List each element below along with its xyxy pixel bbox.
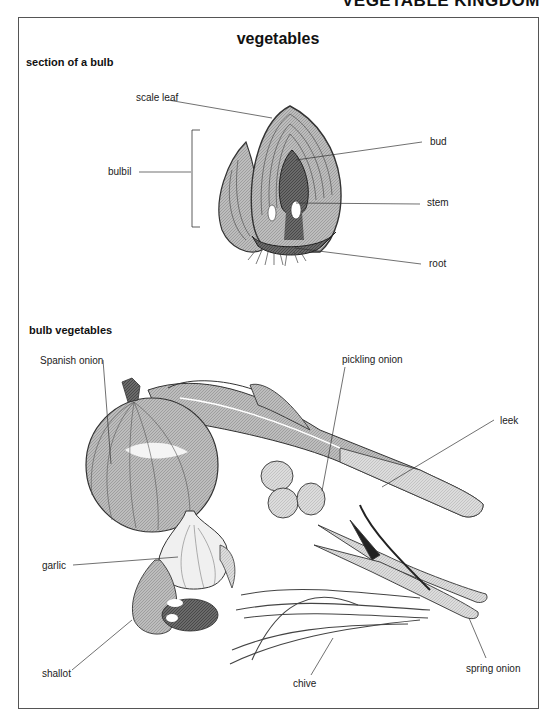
bulb-section-illustration — [192, 106, 341, 266]
label-scale-leaf: scale leaf — [136, 92, 178, 103]
label-spanish-onion: Spanish onion — [40, 355, 103, 366]
label-chive: chive — [293, 678, 316, 689]
label-leek: leek — [500, 415, 518, 426]
label-stem: stem — [427, 197, 449, 208]
label-garlic: garlic — [42, 560, 66, 571]
label-spring-onion: spring onion — [466, 663, 520, 674]
label-pickling-onion: pickling onion — [342, 354, 403, 365]
pickling-onion-illustration — [261, 461, 325, 518]
label-shallot: shallot — [42, 668, 71, 679]
label-bud: bud — [430, 136, 447, 147]
bulbil-bracket — [192, 130, 200, 227]
spring-onion-illustration — [314, 505, 487, 619]
label-bulbil: bulbil — [108, 166, 131, 177]
chive-illustration — [230, 589, 430, 664]
label-root: root — [429, 258, 446, 269]
